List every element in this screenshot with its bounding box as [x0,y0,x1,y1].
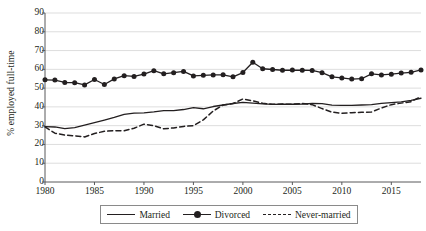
x-tick-label: 1985 [76,187,112,197]
series-never-married [45,97,421,137]
x-tick-label: 2015 [373,187,409,197]
x-tick-label: 2005 [274,187,310,197]
x-tick-label: 1980 [27,187,63,197]
legend-item-married[interactable]: Married [105,210,172,220]
series-divorced [43,60,424,88]
legend-label: Married [139,210,170,220]
legend-label: Divorced [215,210,250,220]
chart-container: % employed full-time 0102030405060708090… [0,0,426,231]
legend-item-never-married[interactable]: Never-married [261,210,353,220]
legend-item-divorced[interactable]: Divorced [181,210,252,220]
grid-lines [45,13,421,163]
line-solid-icon [107,210,135,219]
x-tick-label: 1990 [126,187,162,197]
x-tick-label: 1995 [175,187,211,197]
legend-label: Never-married [295,210,351,220]
line-dashed-icon [263,210,291,219]
line-marker-icon [183,210,211,219]
chart-legend: Married Divorced Never-married [100,205,358,224]
x-tick-label: 2010 [324,187,360,197]
x-tick-label: 2000 [225,187,261,197]
axis-lines [42,13,421,185]
chart-plot-area [0,0,426,231]
